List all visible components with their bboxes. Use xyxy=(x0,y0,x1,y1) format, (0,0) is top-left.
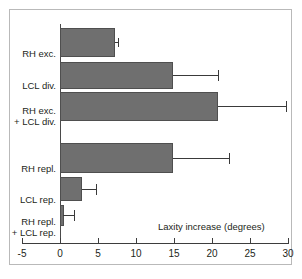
x-tick-30 xyxy=(288,238,289,244)
error-bar-line-rh-exc-lcl-div xyxy=(218,106,286,107)
bar-rh-exc-lcl-div xyxy=(60,92,218,121)
x-tick-label--5: -5 xyxy=(9,248,35,259)
x-tick-label-0: 0 xyxy=(47,248,73,259)
category-label-text: LCL div. xyxy=(0,80,56,91)
x-tick-0 xyxy=(60,238,61,243)
category-label-text: RH repl. xyxy=(0,163,56,174)
error-bar-line-lcl-rep xyxy=(82,189,96,190)
x-tick-label-25: 25 xyxy=(237,248,263,259)
x-tick-label-15: 15 xyxy=(161,248,187,259)
category-label-text: RH exc. xyxy=(0,48,56,59)
x-tick-label-5: 5 xyxy=(85,248,111,259)
x-tick-10 xyxy=(136,238,137,243)
bar-rh-exc xyxy=(60,28,115,57)
error-bar-cap-lcl-div xyxy=(218,70,219,81)
x-tick-15 xyxy=(174,238,175,243)
error-bar-cap-rh-repl xyxy=(229,153,230,164)
error-bar-line-rh-repl xyxy=(173,158,229,159)
x-axis-title: Laxity increase (degrees) xyxy=(158,221,265,232)
error-bar-cap-rh-exc xyxy=(118,38,119,47)
error-bar-line-lcl-div xyxy=(173,75,218,76)
x-tick-label-20: 20 xyxy=(199,248,225,259)
x-tick-5 xyxy=(98,238,99,243)
x-tick-label-30: 30 xyxy=(275,248,301,259)
x-axis-line xyxy=(22,243,288,244)
bar-lcl-rep xyxy=(60,177,82,201)
x-tick--5 xyxy=(22,238,23,244)
category-label-text: LCL rep. xyxy=(0,194,56,205)
bar-rh-repl xyxy=(60,143,173,173)
bar-lcl-div xyxy=(60,62,173,89)
figure-container: RH exc. LCL div. RH exc. + LCL div. RH r… xyxy=(0,0,302,279)
error-bar-line-rh-repl-lcl-rep xyxy=(63,215,74,216)
x-tick-label-10: 10 xyxy=(123,248,149,259)
error-bar-cap-rh-repl-lcl-rep xyxy=(74,210,75,221)
x-tick-20 xyxy=(212,238,213,243)
error-bar-cap-lcl-rep xyxy=(96,184,97,195)
x-tick-25 xyxy=(250,238,251,243)
error-bar-cap-rh-exc-lcl-div xyxy=(286,101,287,112)
category-label-text: RH repl. + LCL rep. xyxy=(0,216,56,238)
category-label-text: RH exc. + LCL div. xyxy=(0,105,56,127)
plot-area: RH exc. LCL div. RH exc. + LCL div. RH r… xyxy=(0,0,302,279)
